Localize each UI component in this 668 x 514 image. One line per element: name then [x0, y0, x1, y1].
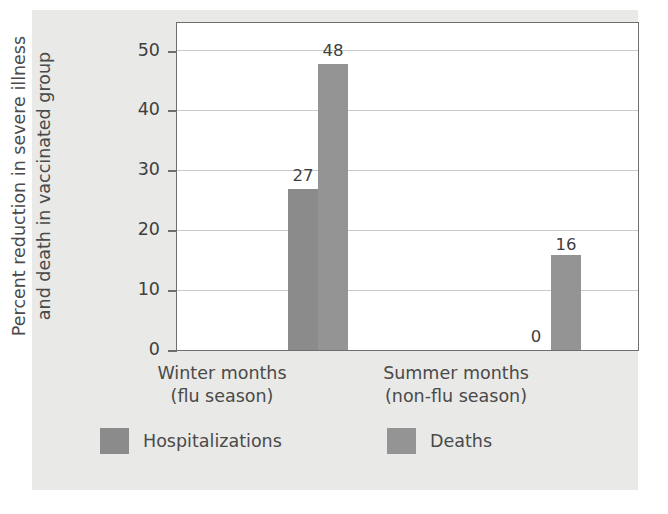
- gridline-20: [177, 230, 638, 231]
- x-category-label-winter: Winter months (flu season): [157, 362, 287, 408]
- y-axis-title-line-1: Percent reduction in severe illness: [7, 36, 32, 336]
- y-tick-label-50: 50: [120, 40, 160, 60]
- x-category-summer-line-2: (non-flu season): [371, 385, 541, 408]
- value-label-winter-hospitalizations: 27: [278, 166, 328, 185]
- legend-item-deaths: Deaths: [387, 428, 492, 454]
- gridline-50: [177, 50, 638, 51]
- gridline-30: [177, 170, 638, 171]
- gridline-40: [177, 110, 638, 111]
- x-category-summer-line-1: Summer months: [371, 362, 541, 385]
- legend-label-hospitalizations: Hospitalizations: [143, 431, 282, 451]
- y-axis-title: Percent reduction in severe illness and …: [4, 16, 60, 356]
- y-tick-label-10: 10: [120, 279, 160, 299]
- bar-winter-deaths: [318, 64, 348, 350]
- y-axis-title-line-2: and death in vaccinated group: [32, 52, 57, 320]
- value-label-summer-hospitalizations: 0: [511, 327, 561, 346]
- legend-swatch-hospitalizations: [100, 428, 129, 454]
- bar-winter-hospitalizations: [288, 189, 318, 350]
- x-category-label-summer: Summer months (non-flu season): [371, 362, 541, 408]
- legend-item-hospitalizations: Hospitalizations: [100, 428, 282, 454]
- y-tick-label-20: 20: [120, 219, 160, 239]
- chart-figure: Percent reduction in severe illness and …: [32, 10, 638, 490]
- y-tick-label-30: 30: [120, 159, 160, 179]
- x-category-winter-line-2: (flu season): [157, 385, 287, 408]
- x-category-winter-line-1: Winter months: [157, 362, 287, 385]
- legend-swatch-deaths: [387, 428, 416, 454]
- value-label-summer-deaths: 16: [541, 235, 591, 254]
- plot-area: 27 48 0 16: [176, 22, 639, 351]
- y-tick-label-40: 40: [120, 99, 160, 119]
- legend-label-deaths: Deaths: [430, 431, 492, 451]
- chart-legend: Hospitalizations Deaths: [32, 428, 638, 468]
- value-label-winter-deaths: 48: [308, 41, 358, 60]
- y-tick-label-0: 0: [120, 339, 160, 359]
